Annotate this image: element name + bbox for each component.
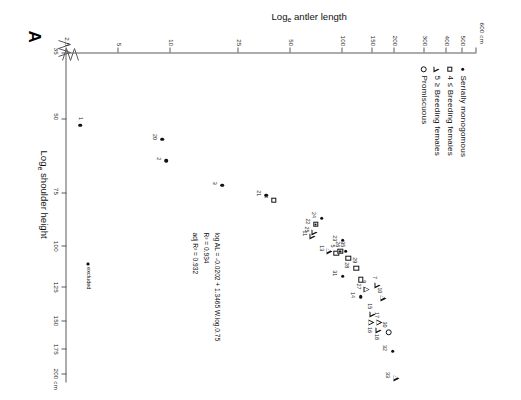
regression-line: log AL = -0.0202 + 1.3465 W.log.0.75 (210, 232, 221, 341)
y-tick (169, 47, 170, 52)
y-tick-label: 500 (459, 26, 466, 46)
data-point-label: 24 (310, 212, 316, 218)
y-axis-top-unit-label: 600 cm (478, 22, 485, 44)
y-tick (461, 47, 462, 52)
legend: Serially monogomous4 ≤ Breeding females5… (417, 62, 469, 157)
data-point-marker-triangle (326, 248, 332, 254)
data-point-marker-circle (385, 329, 391, 335)
y-tick-label: 25 (235, 26, 242, 46)
x-tick-label: 35 (52, 47, 59, 54)
legend-item-circle: Promiscuous (417, 62, 430, 157)
data-point-marker-square (358, 276, 364, 282)
data-point (262, 191, 270, 199)
data-point-label: 28 (343, 262, 349, 268)
y-tick (371, 47, 372, 52)
data-point (392, 374, 400, 382)
data-point-label: 32 (381, 345, 387, 351)
data-point (310, 228, 318, 236)
data-point (388, 347, 396, 355)
legend-item-dot: Serially monogomous (456, 62, 469, 157)
data-point-label: 2 (155, 157, 161, 160)
y-tick-label: 5 (115, 26, 122, 46)
x-axis-line (65, 52, 66, 382)
x-tick (61, 192, 66, 193)
data-point-label: 29 (351, 257, 357, 263)
data-point (158, 135, 166, 143)
x-tick-label: 200 cm (52, 368, 59, 390)
legend-symbol-dot-icon (456, 62, 469, 75)
legend-marker (461, 67, 464, 70)
y-tick-label: 50 (287, 26, 294, 46)
data-point-label: 3 (211, 181, 217, 184)
data-point (317, 214, 325, 222)
data-point-marker-triangle (375, 327, 381, 333)
legend-marker (434, 66, 440, 72)
data-point (218, 181, 226, 189)
data-point-label: 25 (303, 226, 309, 232)
x-tick (61, 320, 66, 321)
legend-item-triangle: 5 ≥ Breeding females (430, 62, 443, 157)
y-tick (117, 47, 118, 52)
x-tick (61, 348, 66, 349)
y-tick-label: 100 (339, 26, 346, 46)
plot-canvas: 355075100125150175200 cm Loge shoulder h… (0, 0, 521, 400)
data-point-label: 14 (349, 291, 355, 297)
data-point-label: 16 (366, 326, 372, 332)
data-point-marker-square (345, 255, 351, 261)
data-point-marker-dot (340, 274, 343, 277)
y-tick-label: 300 (421, 26, 428, 46)
data-point (341, 247, 349, 255)
data-point-label: 33 (384, 372, 390, 378)
data-point (352, 264, 360, 272)
data-point-marker-dot (78, 123, 81, 126)
legend-item-label: 4 ≤ Breeding females (445, 75, 454, 156)
data-point (269, 196, 277, 204)
y-tick (289, 47, 290, 52)
x-tick-label: 75 (52, 187, 59, 194)
data-point-label: 31 (331, 270, 337, 276)
data-point (338, 272, 346, 280)
regression-line: adj R² = 0.932 (188, 232, 199, 341)
data-point (379, 294, 387, 302)
x-axis-title: Loge shoulder height (36, 150, 49, 238)
excluded-marker-icon (86, 262, 89, 265)
y-tick (423, 47, 424, 52)
legend-marker (447, 66, 453, 72)
x-tick-label: 175 (52, 343, 59, 354)
x-tick (61, 373, 66, 374)
y-tick (237, 47, 238, 52)
y-tick-label: 10 (167, 26, 174, 46)
data-point-marker-dot (264, 193, 267, 196)
legend-symbol-triangle-icon (430, 62, 443, 75)
data-point-label: 20 (151, 134, 157, 140)
excluded-annotation: excluded (85, 262, 91, 289)
legend-symbol-circle-icon (417, 62, 430, 75)
data-point-marker-dot (359, 295, 362, 298)
data-point-label: 13 (318, 245, 324, 251)
y-tick-label: 150 (369, 26, 376, 46)
regression-line: R² = 0.934 (199, 232, 210, 341)
data-point-marker-triangle (393, 375, 399, 381)
y-tick-label: 200 (391, 26, 398, 46)
x-tick-label: 125 (52, 281, 59, 292)
data-point-marker-triangle (380, 295, 386, 301)
x-tick-label: 50 (52, 113, 59, 120)
data-point-label: 35 (339, 241, 345, 247)
x-tick-label: 100 (52, 240, 59, 251)
y-tick (341, 47, 342, 52)
legend-symbol-square-icon (443, 62, 456, 75)
y-axis-line (66, 52, 476, 53)
rotated-figure: 355075100125150175200 cm Loge shoulder h… (0, 0, 521, 400)
data-point-marker-dot (320, 216, 323, 219)
x-axis-title-text: Loge shoulder height (38, 150, 49, 238)
legend-item-square: 4 ≤ Breeding females (443, 62, 456, 157)
data-point-marker-square (353, 265, 359, 271)
x-tick (61, 245, 66, 246)
data-point-label: 27 (355, 283, 361, 289)
x-tick (61, 118, 66, 119)
y-tick-label: 2.5 (63, 26, 70, 46)
data-point (384, 328, 392, 336)
data-point-label: 10 (376, 287, 382, 293)
legend-marker (420, 65, 426, 71)
data-point-label: 15 (366, 303, 372, 309)
